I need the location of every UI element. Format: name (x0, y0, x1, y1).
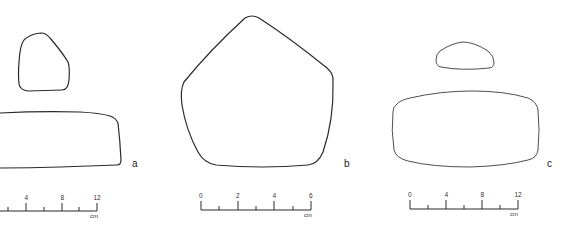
scale-c-tick-0: 0 (408, 191, 412, 198)
figure-c-scale-bar: 0 4 8 12 cm (408, 191, 522, 217)
figure-b-plan-view (181, 16, 333, 167)
scale-b-tick-0: 0 (199, 192, 203, 199)
figure-a-side-view (0, 112, 121, 168)
figure-a-scale-bar: 4 8 12 cm (0, 194, 101, 219)
scale-a-tick-8: 8 (61, 194, 65, 201)
scale-b-tick-4: 4 (273, 192, 277, 199)
scale-c-tick-8: 8 (481, 191, 485, 198)
figure-a-label: a (132, 158, 138, 169)
figure-b-label: b (344, 158, 350, 169)
scale-a-tick-4: 4 (25, 194, 29, 201)
figure-a: a 4 8 12 cm (0, 33, 138, 219)
scale-c-unit: cm (510, 211, 518, 217)
scale-b-tick-6: 6 (309, 192, 313, 199)
scale-c-tick-12: 12 (515, 191, 523, 198)
figure-c-label: c (547, 158, 552, 169)
figure-a-cross-section (19, 33, 70, 91)
figure-b-scale-bar: 0 2 4 6 cm (199, 192, 313, 218)
artifact-drawing-plate: a 4 8 12 cm b 0 2 (0, 0, 575, 228)
scale-b-unit: cm (304, 212, 312, 218)
scale-a-tick-12: 12 (94, 194, 102, 201)
figure-c: c 0 4 8 12 cm (392, 42, 552, 217)
scale-a-unit: cm (90, 213, 98, 219)
figure-c-cross-section (436, 42, 494, 69)
figure-c-side-view (392, 91, 539, 167)
figure-b: b 0 2 4 6 cm (181, 16, 350, 218)
scale-c-tick-4: 4 (445, 191, 449, 198)
scale-b-tick-2: 2 (236, 192, 240, 199)
